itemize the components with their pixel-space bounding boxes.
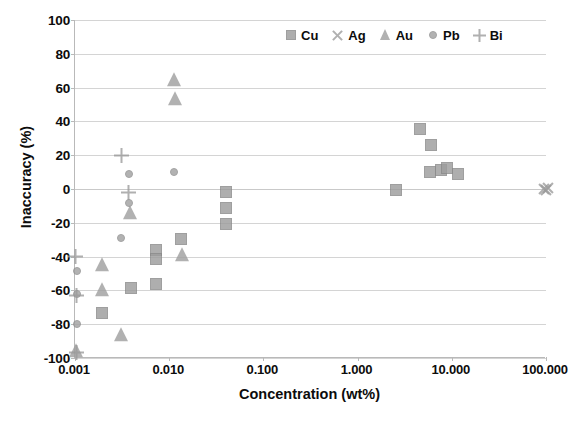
x-axis-tick-label: 0.100 (217, 362, 307, 377)
data-point-cu (125, 282, 137, 294)
data-point-bi (69, 288, 84, 303)
data-point-pb (170, 168, 178, 176)
gridline (75, 121, 546, 122)
scatter-chart: Inaccuracy (%) 100806040200-20-40-60-80-… (0, 0, 583, 427)
gridline (75, 20, 546, 21)
x-axis-tick (263, 357, 264, 361)
x-axis-title: Concentration (wt%) (74, 386, 545, 402)
plus-marker-icon (473, 29, 486, 42)
data-point-pb (117, 234, 125, 242)
legend-label: Au (396, 28, 413, 43)
data-point-au (95, 282, 109, 296)
y-axis-tick-label: 40 (14, 114, 70, 129)
data-point-cu (150, 278, 162, 290)
y-axis-tick-label: 80 (14, 46, 70, 61)
legend-entry-cu[interactable]: Cu (284, 28, 318, 43)
legend-label: Ag (348, 28, 365, 43)
y-axis-tick-label: -80 (14, 317, 70, 332)
data-point-au (123, 205, 137, 219)
x-axis-tick (452, 357, 453, 361)
chart-legend: CuAgAuPbBi (280, 23, 507, 47)
x-marker-icon (331, 29, 344, 42)
y-axis-tick-label: 0 (14, 182, 70, 197)
data-point-pb (73, 320, 81, 328)
y-axis-tick (71, 88, 75, 89)
legend-entry-ag[interactable]: Ag (331, 28, 365, 43)
data-point-au (167, 72, 181, 86)
gridline (75, 155, 546, 156)
data-point-ag (541, 181, 555, 195)
gridline (75, 54, 546, 55)
y-axis-tick (71, 189, 75, 190)
y-axis-tick-label: 100 (14, 13, 70, 28)
data-point-cu (220, 186, 232, 198)
y-axis-tick-label: -40 (14, 249, 70, 264)
data-point-bi (121, 185, 136, 200)
data-point-bi (68, 249, 83, 264)
gridline (75, 257, 546, 258)
data-point-cu (425, 139, 437, 151)
legend-label: Pb (443, 28, 460, 43)
data-point-pb (125, 170, 133, 178)
legend-entry-bi[interactable]: Bi (473, 28, 503, 43)
data-point-au (175, 247, 189, 261)
circle-marker-icon (426, 29, 439, 42)
y-axis-tick-label: 60 (14, 80, 70, 95)
x-axis-tick-label: 0.010 (123, 362, 213, 377)
data-point-cu (220, 218, 232, 230)
legend-entry-au[interactable]: Au (379, 28, 413, 43)
plot-area (74, 20, 545, 358)
x-axis-tick (546, 357, 547, 361)
legend-label: Bi (490, 28, 503, 43)
x-axis-tick-label: 10.000 (406, 362, 496, 377)
gridline (75, 358, 546, 359)
data-point-cu (452, 168, 464, 180)
gridline (75, 324, 546, 325)
gridline (75, 189, 546, 190)
y-axis-tick (71, 121, 75, 122)
square-marker-icon (284, 29, 297, 42)
y-axis-tick-label: 20 (14, 148, 70, 163)
data-point-cu (390, 184, 402, 196)
x-axis-tick (169, 357, 170, 361)
data-point-au (168, 91, 182, 105)
y-axis-tick-label: -60 (14, 283, 70, 298)
data-point-cu (414, 123, 426, 135)
y-axis-tick (71, 155, 75, 156)
triangle-marker-icon (379, 29, 392, 42)
data-point-bi (114, 148, 129, 163)
data-point-cu (220, 202, 232, 214)
data-point-au (114, 327, 128, 341)
y-axis-tick-label: -20 (14, 215, 70, 230)
x-axis-tick-label: 100.000 (500, 362, 583, 377)
gridline (75, 290, 546, 291)
gridline (75, 88, 546, 89)
data-point-cu (150, 253, 162, 265)
x-axis-tick-label: 0.001 (29, 362, 119, 377)
y-axis-tick (71, 54, 75, 55)
x-axis-tick (358, 357, 359, 361)
gridline (75, 223, 546, 224)
data-point-bi (69, 345, 84, 360)
legend-label: Cu (301, 28, 318, 43)
data-point-pb (73, 267, 81, 275)
y-axis-tick (71, 223, 75, 224)
data-point-au (95, 257, 109, 271)
y-axis-tick (71, 20, 75, 21)
data-point-cu (175, 233, 187, 245)
data-point-cu (96, 307, 108, 319)
legend-entry-pb[interactable]: Pb (426, 28, 460, 43)
x-axis-tick-label: 1.000 (312, 362, 402, 377)
